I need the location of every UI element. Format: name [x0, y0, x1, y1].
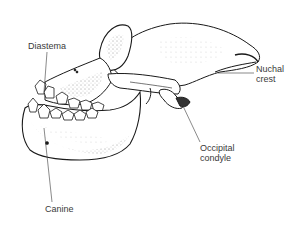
maxilla: [45, 58, 112, 105]
label-occipital-condyle-line2: condyle: [200, 153, 231, 163]
skull-illustration: [0, 0, 300, 230]
label-nuchal-crest-line2: crest: [256, 74, 276, 84]
leader-occipital-condyle: [183, 106, 200, 142]
label-occipital-condyle-line1: Occipital: [200, 143, 235, 153]
label-diastema: Diastema: [28, 41, 66, 51]
label-nuchal-crest: Nuchal crest: [256, 64, 284, 84]
label-canine-text: Canine: [45, 204, 74, 214]
label-canine: Canine: [45, 204, 74, 214]
label-diastema-text: Diastema: [28, 41, 66, 51]
label-nuchal-crest-line1: Nuchal: [256, 64, 284, 74]
label-occipital-condyle: Occipital condyle: [200, 143, 235, 163]
